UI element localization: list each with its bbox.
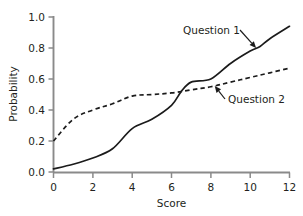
annotation-question-1: Question 1	[183, 24, 256, 48]
y-tick-labels: 1.0 0.8 0.6 0.4 0.2 0.0	[28, 11, 45, 178]
x-tick-label: 4	[129, 181, 136, 193]
y-tick-label: 0.8	[28, 42, 45, 54]
y-tick-label: 0.2	[28, 135, 45, 147]
x-tick-label: 6	[168, 181, 175, 193]
x-tick-label: 2	[90, 181, 97, 193]
probability-vs-score-chart: 1.0 0.8 0.6 0.4 0.2 0.0 0 2 4 6 8 10 12 …	[0, 0, 303, 216]
y-tick-label: 1.0	[28, 11, 45, 23]
leader-line	[240, 30, 252, 43]
x-tick-label: 8	[208, 181, 215, 193]
y-tick-label: 0.6	[28, 73, 45, 85]
y-tick-label: 0.4	[28, 104, 45, 116]
x-tick-label: 0	[50, 181, 57, 193]
chart-canvas: 1.0 0.8 0.6 0.4 0.2 0.0 0 2 4 6 8 10 12 …	[0, 0, 303, 216]
y-axis-title: Probability	[7, 66, 19, 122]
y-tick-label: 0.0	[28, 166, 45, 178]
annotation-question-2: Question 2	[215, 86, 285, 105]
x-tick-label: 10	[244, 181, 257, 193]
x-tick-labels: 0 2 4 6 8 10 12	[50, 181, 296, 193]
annotation-label-question-1: Question 1	[183, 24, 240, 36]
annotation-label-question-2: Question 2	[228, 93, 285, 105]
x-tick-label: 12	[283, 181, 296, 193]
leader-line	[219, 91, 225, 99]
x-axis-title: Score	[157, 197, 186, 209]
